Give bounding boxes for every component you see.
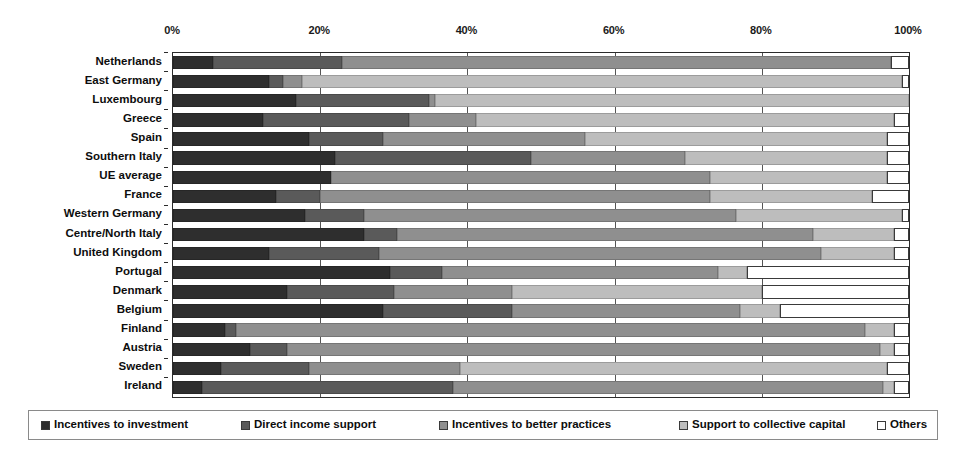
bar-segment[interactable] <box>173 151 335 164</box>
bar-segment[interactable] <box>302 75 902 88</box>
bar-segment[interactable] <box>780 304 909 317</box>
bar-segment[interactable] <box>225 323 236 336</box>
bar-segment[interactable] <box>887 132 909 145</box>
bar-segment[interactable] <box>173 171 331 184</box>
bar-segment[interactable] <box>902 75 909 88</box>
bar-segment[interactable] <box>173 323 225 336</box>
bar-segment[interactable] <box>894 323 909 336</box>
bar-segment[interactable] <box>813 228 894 241</box>
bar-segment[interactable] <box>476 113 894 126</box>
bar-segment[interactable] <box>173 362 221 375</box>
bar-segment[interactable] <box>736 209 902 222</box>
bar-segment[interactable] <box>718 266 747 279</box>
bar-row[interactable] <box>173 285 909 298</box>
bar-segment[interactable] <box>512 304 740 317</box>
bar-segment[interactable] <box>442 266 718 279</box>
bar-segment[interactable] <box>740 304 780 317</box>
bar-segment[interactable] <box>887 151 909 164</box>
bar-segment[interactable] <box>821 247 895 260</box>
bar-segment[interactable] <box>287 285 394 298</box>
bar-segment[interactable] <box>296 94 429 107</box>
bar-segment[interactable] <box>894 247 909 260</box>
bar-segment[interactable] <box>309 362 460 375</box>
bar-segment[interactable] <box>173 381 202 394</box>
bar-row[interactable] <box>173 266 909 279</box>
bar-segment[interactable] <box>453 381 884 394</box>
bar-segment[interactable] <box>435 94 909 107</box>
bar-row[interactable] <box>173 171 909 184</box>
bar-segment[interactable] <box>379 247 821 260</box>
bar-segment[interactable] <box>320 190 710 203</box>
bar-segment[interactable] <box>283 75 301 88</box>
bar-segment[interactable] <box>880 343 895 356</box>
bar-row[interactable] <box>173 343 909 356</box>
bar-segment[interactable] <box>269 75 284 88</box>
bar-segment[interactable] <box>390 266 442 279</box>
bar-segment[interactable] <box>460 362 887 375</box>
bar-segment[interactable] <box>263 113 409 126</box>
legend-item[interactable]: Direct income support <box>241 419 376 431</box>
bar-row[interactable] <box>173 304 909 317</box>
bar-segment[interactable] <box>887 362 909 375</box>
bar-segment[interactable] <box>309 132 383 145</box>
bar-segment[interactable] <box>887 171 909 184</box>
bar-segment[interactable] <box>287 343 879 356</box>
bar-segment[interactable] <box>173 113 263 126</box>
bar-segment[interactable] <box>891 56 909 69</box>
bar-row[interactable] <box>173 209 909 222</box>
bar-segment[interactable] <box>383 132 585 145</box>
bar-segment[interactable] <box>173 343 250 356</box>
bar-row[interactable] <box>173 247 909 260</box>
bar-segment[interactable] <box>685 151 887 164</box>
legend-item[interactable]: Incentives to investment <box>41 419 188 431</box>
bar-segment[interactable] <box>902 209 909 222</box>
bar-segment[interactable] <box>585 132 887 145</box>
bar-segment[interactable] <box>173 209 305 222</box>
bar-segment[interactable] <box>894 228 909 241</box>
bar-segment[interactable] <box>173 94 296 107</box>
bar-segment[interactable] <box>173 266 390 279</box>
bar-segment[interactable] <box>173 304 383 317</box>
bar-segment[interactable] <box>865 323 894 336</box>
bar-segment[interactable] <box>173 190 276 203</box>
bar-segment[interactable] <box>894 113 909 126</box>
bar-segment[interactable] <box>173 285 287 298</box>
bar-row[interactable] <box>173 56 909 69</box>
bar-segment[interactable] <box>894 343 909 356</box>
bar-segment[interactable] <box>173 132 309 145</box>
bar-row[interactable] <box>173 75 909 88</box>
bar-segment[interactable] <box>173 75 269 88</box>
bar-segment[interactable] <box>883 381 894 394</box>
bar-segment[interactable] <box>364 209 736 222</box>
bar-segment[interactable] <box>409 113 477 126</box>
bar-segment[interactable] <box>342 56 890 69</box>
bar-segment[interactable] <box>710 190 872 203</box>
bar-segment[interactable] <box>747 266 909 279</box>
bar-row[interactable] <box>173 362 909 375</box>
bar-segment[interactable] <box>872 190 909 203</box>
bar-segment[interactable] <box>512 285 762 298</box>
bar-segment[interactable] <box>305 209 364 222</box>
bar-segment[interactable] <box>173 247 269 260</box>
legend-item[interactable]: Incentives to better practices <box>439 419 611 431</box>
bar-segment[interactable] <box>269 247 379 260</box>
bar-segment[interactable] <box>394 285 512 298</box>
bar-segment[interactable] <box>762 285 909 298</box>
bar-row[interactable] <box>173 151 909 164</box>
bar-segment[interactable] <box>173 56 213 69</box>
bar-row[interactable] <box>173 381 909 394</box>
bar-row[interactable] <box>173 190 909 203</box>
bar-row[interactable] <box>173 94 909 107</box>
bar-segment[interactable] <box>331 171 710 184</box>
bar-row[interactable] <box>173 132 909 145</box>
bar-segment[interactable] <box>335 151 531 164</box>
bar-segment[interactable] <box>397 228 813 241</box>
legend-item[interactable]: Others <box>877 419 927 431</box>
bar-segment[interactable] <box>213 56 342 69</box>
bar-segment[interactable] <box>236 323 865 336</box>
bar-segment[interactable] <box>894 381 909 394</box>
bar-segment[interactable] <box>276 190 320 203</box>
bar-row[interactable] <box>173 113 909 126</box>
bar-segment[interactable] <box>710 171 887 184</box>
legend-item[interactable]: Support to collective capital <box>679 419 845 431</box>
